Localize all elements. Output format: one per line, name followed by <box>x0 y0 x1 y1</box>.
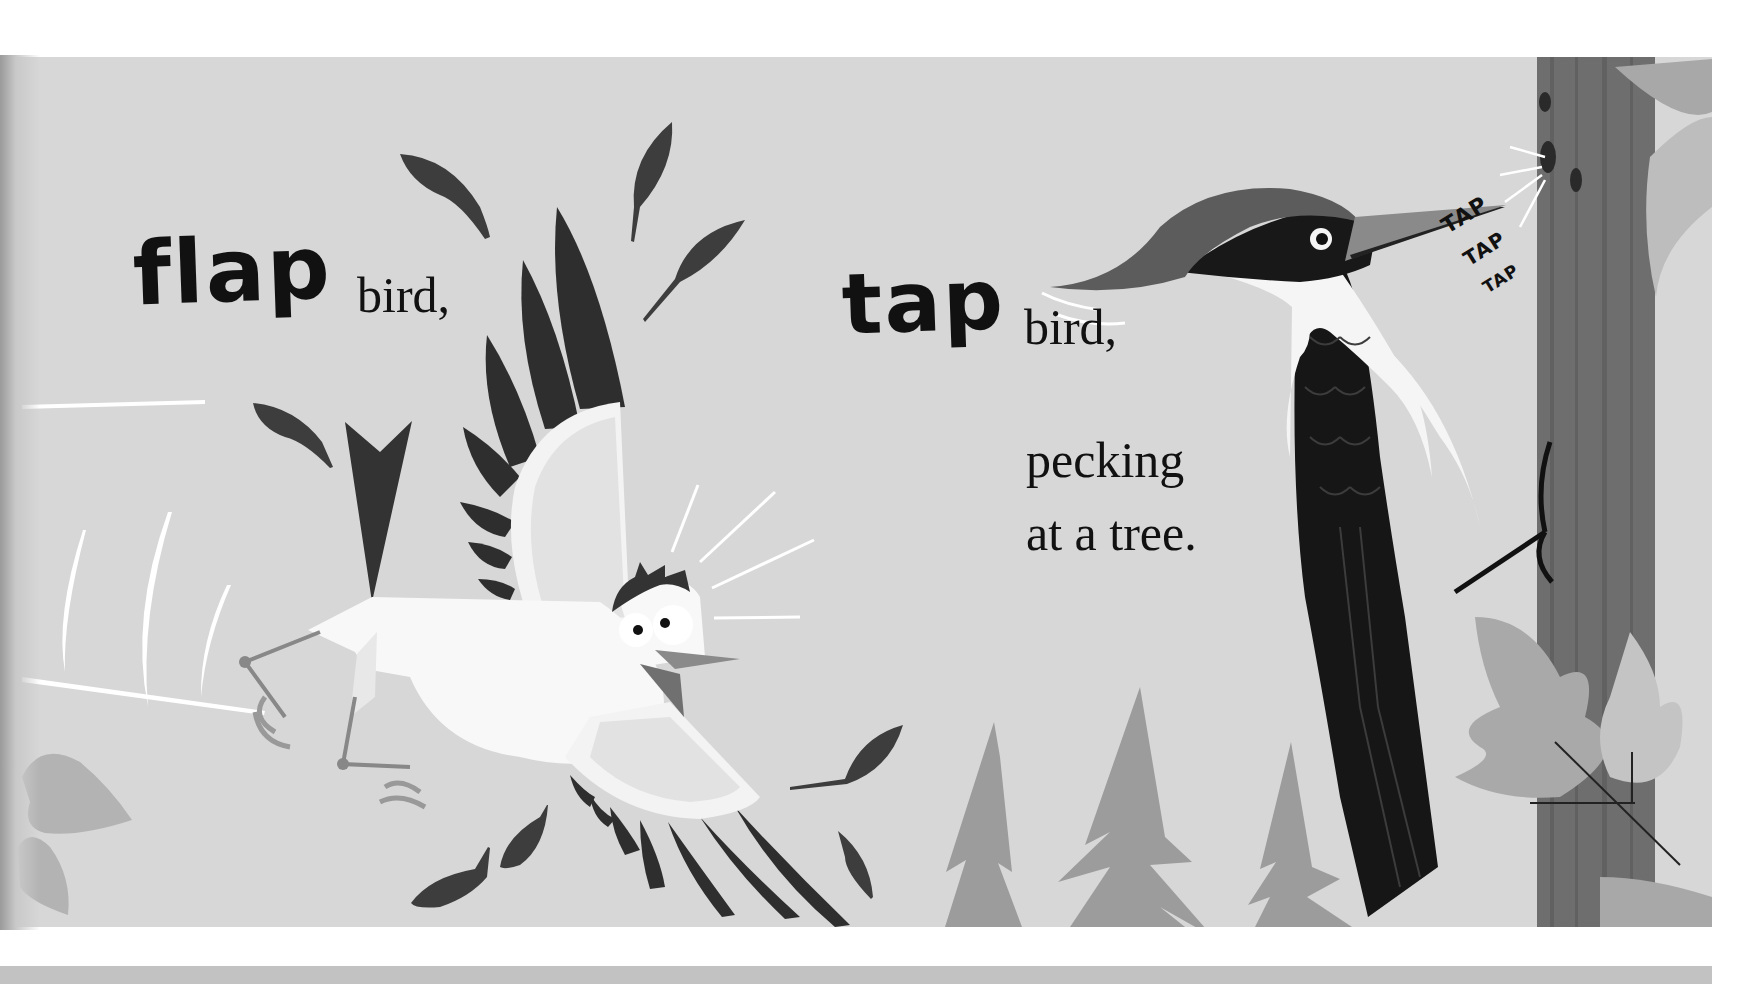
bird-tail <box>345 421 412 602</box>
illustration <box>0 57 1712 927</box>
action-word-tap: tap <box>841 257 1007 347</box>
text-pecking: pecking <box>1026 435 1184 485</box>
motion-lines-icon <box>22 400 265 715</box>
pine-trees <box>945 687 1352 927</box>
next-page-edge <box>0 966 1712 984</box>
text-bird-right: bird, <box>1024 302 1117 352</box>
leaf-icon <box>18 754 132 915</box>
text-bird-left: bird, <box>357 270 450 320</box>
bird-eye-right <box>653 605 693 645</box>
action-word-flap: flap <box>132 224 334 319</box>
text-at-a-tree: at a tree. <box>1026 508 1197 558</box>
book-page-spread: flap bird, tap bird, pecking at a tree. … <box>0 57 1712 927</box>
